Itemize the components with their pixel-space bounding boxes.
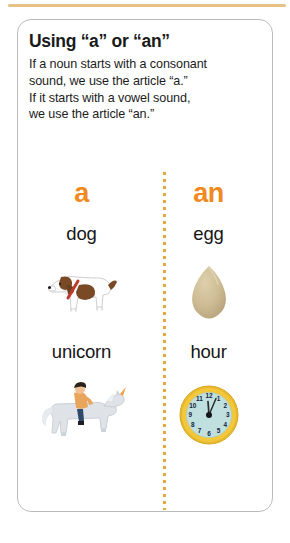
body-line-1: If a noun starts with a consonant — [29, 56, 263, 73]
article-cell-a: a — [18, 172, 145, 214]
lesson-card: Using “a” or “an” If a noun starts with … — [17, 19, 273, 512]
comparison-table: a an dog egg — [18, 172, 272, 458]
word-cell-unicorn: unicorn — [18, 332, 145, 372]
unicorn-rider-illustration — [18, 372, 145, 458]
svg-text:12: 12 — [205, 392, 213, 399]
svg-text:10: 10 — [189, 402, 197, 409]
heading-block: Using “a” or “an” If a noun starts with … — [29, 31, 263, 123]
illustration-cell-egg — [145, 254, 272, 332]
dog-illustration — [18, 254, 145, 332]
word-label-dog: dog — [66, 225, 96, 244]
clock-illustration: 12 1 2 3 4 5 6 7 8 9 10 11 — [145, 372, 272, 458]
egg-illustration — [145, 254, 272, 332]
illustration-cell-dog — [18, 254, 145, 332]
svg-text:9: 9 — [188, 411, 192, 418]
svg-text:7: 7 — [197, 427, 201, 434]
svg-text:5: 5 — [216, 427, 220, 434]
svg-text:1: 1 — [216, 395, 220, 402]
article-label-a: a — [74, 180, 89, 207]
illustration-cell-unicorn — [18, 372, 145, 458]
svg-text:11: 11 — [196, 395, 203, 402]
article-label-an: an — [193, 180, 224, 207]
article-cell-an: an — [145, 172, 272, 214]
word-label-unicorn: unicorn — [52, 343, 111, 362]
svg-text:8: 8 — [191, 421, 195, 428]
svg-text:3: 3 — [225, 411, 229, 418]
illustration-row-1 — [18, 254, 272, 332]
svg-text:4: 4 — [223, 421, 227, 428]
svg-text:6: 6 — [207, 430, 211, 437]
word-row-1: dog egg — [18, 214, 272, 254]
word-cell-dog: dog — [18, 214, 145, 254]
top-divider-rule — [8, 4, 286, 7]
body-line-2: sound, we use the article “a.” — [29, 73, 263, 90]
illustration-cell-clock: 12 1 2 3 4 5 6 7 8 9 10 11 — [145, 372, 272, 458]
word-cell-hour: hour — [145, 332, 272, 372]
body-line-3: If it starts with a vowel sound, — [29, 90, 263, 107]
word-cell-egg: egg — [145, 214, 272, 254]
svg-text:2: 2 — [223, 402, 227, 409]
word-row-2: unicorn hour — [18, 332, 272, 372]
word-label-egg: egg — [193, 225, 223, 244]
word-label-hour: hour — [190, 343, 226, 362]
article-header-row: a an — [18, 172, 272, 214]
body-line-4: we use the article “an.” — [29, 106, 263, 123]
illustration-row-2: 12 1 2 3 4 5 6 7 8 9 10 11 — [18, 372, 272, 458]
page-title: Using “a” or “an” — [29, 31, 263, 51]
